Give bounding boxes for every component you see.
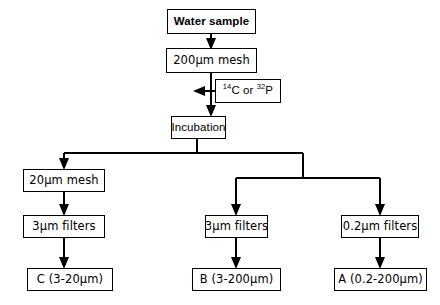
node-isotope-tracer-label: 14C or 32P <box>223 85 273 97</box>
node-3um-filters-mid: 3µm filters <box>205 215 268 238</box>
node-200um-mesh: 200µm mesh <box>166 48 257 73</box>
node-3um-filters-left-label: 3µm filters <box>32 221 95 233</box>
node-result-a-label: A (0.2-200µm) <box>338 274 423 286</box>
flowchart-connectors <box>0 0 440 305</box>
node-result-a: A (0.2-200µm) <box>334 268 427 291</box>
node-incubation: Incubation <box>171 116 226 139</box>
flowchart-diagram: Water sample 200µm mesh 14C or 32P Incub… <box>0 0 440 305</box>
node-water-sample-label: Water sample <box>174 16 250 28</box>
node-result-c: C (3-20µm) <box>27 268 113 291</box>
node-20um-mesh: 20µm mesh <box>23 169 105 192</box>
node-02um-filters-right: 0.2µm filters <box>341 215 419 238</box>
node-02um-filters-right-label: 0.2µm filters <box>343 221 418 233</box>
node-result-b-label: B (3-200µm) <box>200 274 274 286</box>
isotope-element-p: P <box>265 84 273 96</box>
node-result-c-label: C (3-20µm) <box>37 274 103 286</box>
node-3um-filters-left: 3µm filters <box>23 215 105 238</box>
node-200um-mesh-label: 200µm mesh <box>173 55 250 67</box>
arrowhead-isotope <box>193 86 205 96</box>
isotope-element-c: C <box>231 84 239 96</box>
node-water-sample: Water sample <box>167 9 256 34</box>
isotope-conjunction: or <box>240 84 257 96</box>
node-3um-filters-mid-label: 3µm filters <box>205 221 268 233</box>
node-incubation-label: Incubation <box>171 122 225 134</box>
node-result-b: B (3-200µm) <box>192 268 281 291</box>
node-20um-mesh-label: 20µm mesh <box>29 175 98 187</box>
node-isotope-tracer: 14C or 32P <box>215 79 281 103</box>
